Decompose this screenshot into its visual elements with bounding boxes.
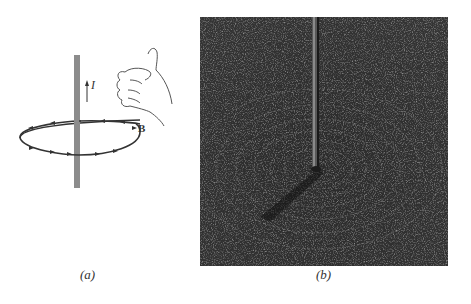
wire-loop-diagram bbox=[0, 0, 200, 280]
caption-b: (b) bbox=[316, 267, 331, 283]
field-label: B bbox=[138, 122, 145, 134]
current-label: I bbox=[91, 78, 95, 93]
iron-filings-pattern bbox=[200, 17, 448, 266]
iron-filings-photo bbox=[200, 17, 448, 266]
caption-a: (a) bbox=[80, 267, 95, 283]
